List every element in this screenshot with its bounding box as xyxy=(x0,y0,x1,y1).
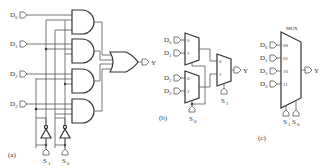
panel-b: D 0 D 1 D 2 D 3 0 1 0 1 xyxy=(159,33,248,124)
select-s0: S 0 xyxy=(189,106,197,124)
input-port-icon xyxy=(20,41,27,47)
and-gate-icon xyxy=(72,99,94,123)
svg-text:2: 2 xyxy=(169,78,172,83)
svg-text:2: 2 xyxy=(265,71,268,76)
svg-text:1: 1 xyxy=(169,53,172,58)
svg-text:3: 3 xyxy=(15,104,18,109)
select-s0: S 0 xyxy=(292,100,300,127)
input-d1: D 1 xyxy=(164,49,185,58)
input-d3: D 3 xyxy=(10,100,72,109)
svg-text:0: 0 xyxy=(15,15,18,20)
input-d1: D 1 xyxy=(10,40,72,49)
svg-text:S: S xyxy=(221,97,225,105)
mux-title: MUX xyxy=(286,26,298,31)
input-port-icon xyxy=(270,42,277,48)
input-port-icon xyxy=(20,12,27,18)
svg-text:3: 3 xyxy=(169,91,172,96)
svg-text:0: 0 xyxy=(67,161,70,166)
svg-text:1: 1 xyxy=(265,58,268,63)
input-port-icon xyxy=(270,81,277,87)
input-port-icon xyxy=(20,101,27,107)
input-d2: D 2 xyxy=(164,74,185,83)
inverter-s1 xyxy=(36,118,51,148)
input-port-icon xyxy=(20,71,27,77)
svg-text:0: 0 xyxy=(297,122,300,127)
input-port-icon xyxy=(189,106,195,112)
input-d0: D 0 xyxy=(164,36,185,45)
input-port-icon xyxy=(43,149,49,155)
and-gate-icon xyxy=(72,69,94,93)
caption-a: (a) xyxy=(8,151,16,159)
svg-text:S: S xyxy=(189,115,193,123)
input-port-icon xyxy=(62,149,68,155)
caption-b: (b) xyxy=(159,114,168,122)
svg-text:2: 2 xyxy=(15,74,18,79)
svg-text:3: 3 xyxy=(265,84,268,89)
input-d0: D 0 xyxy=(10,11,72,20)
output-y: Y xyxy=(151,59,156,67)
select-s1: S 1 xyxy=(221,88,229,106)
input-port-icon xyxy=(174,88,181,94)
svg-text:0: 0 xyxy=(265,45,268,50)
select-s1: S 1 xyxy=(43,148,51,166)
svg-text:10: 10 xyxy=(283,69,289,74)
output-y: Y xyxy=(243,67,248,75)
inverter-icon xyxy=(41,129,51,138)
and-gate-icon xyxy=(72,10,94,34)
or-gate-icon xyxy=(110,52,138,72)
svg-text:1: 1 xyxy=(226,101,229,106)
input-port-icon xyxy=(174,37,181,43)
input-port-icon xyxy=(293,110,299,116)
svg-text:S: S xyxy=(292,118,296,126)
mux-diagram: D 0 D 1 D 2 D 3 xyxy=(0,0,331,168)
svg-text:1: 1 xyxy=(15,44,18,49)
output-port-icon xyxy=(305,67,312,73)
input-port-icon xyxy=(174,50,181,56)
svg-text:S: S xyxy=(62,157,66,165)
input-port-icon xyxy=(221,88,227,94)
panel-c: MUX D 0 00 D 1 01 D 2 10 D 3 1 xyxy=(258,26,319,142)
svg-text:11: 11 xyxy=(283,82,288,87)
inverter-s0 xyxy=(55,118,70,148)
svg-text:1: 1 xyxy=(48,161,51,166)
output-port-icon xyxy=(142,59,149,65)
input-d2: D 2 xyxy=(10,70,72,79)
svg-text:0: 0 xyxy=(194,119,197,124)
svg-text:1: 1 xyxy=(288,122,291,127)
svg-text:S: S xyxy=(283,118,287,126)
select-s1: S 1 xyxy=(283,105,291,127)
svg-text:01: 01 xyxy=(283,56,289,61)
output-port-icon xyxy=(234,67,241,73)
input-port-icon xyxy=(174,75,181,81)
input-port-icon xyxy=(283,110,289,116)
input-port-icon xyxy=(270,68,277,74)
svg-text:0: 0 xyxy=(169,40,172,45)
caption-c: (c) xyxy=(258,134,266,142)
input-port-icon xyxy=(270,55,277,61)
select-s0: S 0 xyxy=(62,148,70,166)
input-d3: D 3 xyxy=(164,87,185,96)
svg-text:00: 00 xyxy=(283,43,289,48)
panel-a: D 0 D 1 D 2 D 3 xyxy=(8,10,156,166)
svg-text:S: S xyxy=(43,157,47,165)
output-y: Y xyxy=(314,67,319,75)
inverter-icon xyxy=(60,129,70,138)
and-gate-icon xyxy=(72,39,94,63)
